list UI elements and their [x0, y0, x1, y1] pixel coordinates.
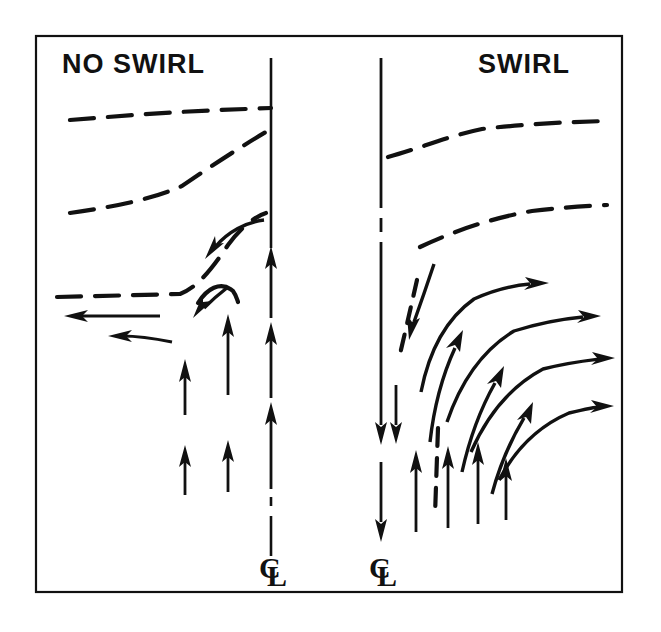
- cl-glyph-l: L: [267, 559, 287, 592]
- cl-glyph-l-swirl: L: [377, 559, 397, 592]
- panel-label-swirl: SWIRL: [478, 49, 570, 79]
- panel-label-no-swirl: NO SWIRL: [62, 49, 205, 79]
- figure-container: NO SWIRL: [0, 0, 661, 632]
- flow-diagram-svg: NO SWIRL: [0, 0, 661, 632]
- streamline-sw-inner-2: [435, 428, 438, 515]
